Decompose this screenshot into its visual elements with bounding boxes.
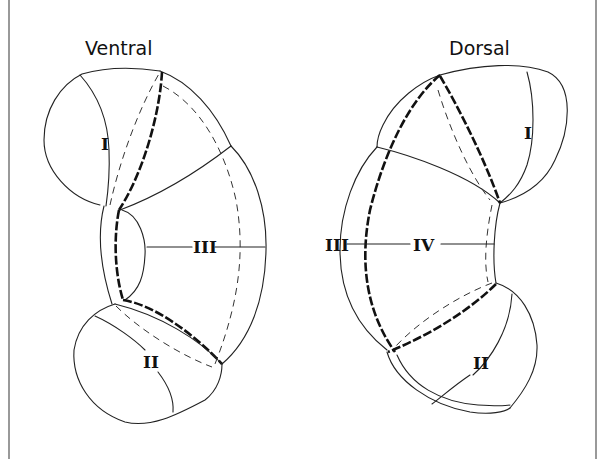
dorsal-lobe-II-lower-edge [387, 352, 510, 413]
dorsal-right-concave-edge [494, 203, 500, 283]
dorsal-title: Dorsal [449, 37, 510, 59]
dorsal-bold-boundary-lower [388, 284, 496, 352]
dorsal-upper-segment-line [377, 147, 500, 203]
dorsal-label-II: II [473, 353, 489, 373]
dorsal-label-III: III [325, 235, 349, 255]
ventral-hidden-line-top [110, 72, 160, 205]
ventral-lobe-II-top-edge [115, 304, 222, 364]
dorsal-label-I: I [524, 123, 532, 143]
dorsal-label-IV: IV [413, 235, 435, 255]
ventral-top-outer-edge [160, 71, 231, 146]
ventral-lobe-II-divider [95, 316, 145, 350]
ventral-lobe-II-divider-lower [158, 372, 173, 412]
ventral-label-III: III [193, 237, 217, 257]
ventral-label-I: I [101, 134, 109, 154]
ventral-notch-outer [100, 206, 112, 304]
dorsal-lobe-II-band-edge [397, 355, 510, 406]
figure-canvas: Ventral III II [0, 0, 599, 459]
dorsal-hidden-line-lower [395, 283, 492, 347]
dorsal-bold-boundary-upper-right [440, 76, 500, 203]
dorsal-view: Dorsal III IV II I [325, 37, 567, 413]
dorsal-bold-boundary-left [365, 75, 440, 352]
dorsal-lobe-II-outline [496, 283, 537, 408]
dorsal-hidden-line-top [438, 90, 490, 200]
ventral-label-II: II [143, 352, 159, 372]
ventral-title: Ventral [85, 37, 152, 59]
ventral-bold-boundary-notch [116, 210, 123, 300]
dorsal-lobe-I-outline [440, 66, 567, 203]
ventral-bold-boundary-upper [119, 72, 162, 210]
ventral-lobe-II-hidden-line [116, 306, 212, 367]
ventral-right-outer-edge [222, 146, 266, 364]
ventral-bold-boundary-lower [123, 300, 222, 364]
ventral-view: Ventral III II [44, 37, 266, 424]
ventral-hidden-arc-right [163, 86, 240, 364]
ventral-notch-inner [122, 210, 145, 300]
